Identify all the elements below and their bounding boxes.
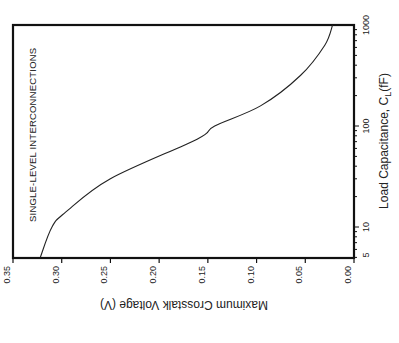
voltage-tick-label: 0.00 (343, 266, 353, 284)
capacitance-tick-label: 1000 (361, 15, 371, 35)
capacitance-tick-label: 100 (361, 118, 371, 133)
series-line (40, 25, 332, 257)
voltage-tick-label: 0.15 (197, 266, 207, 284)
capacitance-tick-label: 10 (361, 222, 371, 232)
voltage-axis-title: Maximum Crosstalk Voltage (V) (100, 298, 268, 312)
capacitance-tick-label: 5 (361, 252, 371, 257)
capacitance-axis-title: Load Capacitance, CL(fF) (377, 73, 393, 209)
voltage-tick-label: 0.20 (148, 266, 158, 284)
voltage-tick-label: 0.35 (2, 266, 12, 284)
plot-frame (13, 25, 354, 258)
voltage-tick-label: 0.05 (294, 266, 304, 284)
data-curve (40, 25, 332, 257)
series-annotation: SINGLE-LEVEL INTERCONNECTIONS (27, 48, 38, 222)
voltage-tick-label: 0.25 (99, 266, 109, 284)
voltage-tick-label: 0.30 (51, 266, 61, 284)
voltage-axis-ticks: 0.350.300.250.200.150.100.050.00 (2, 258, 354, 284)
voltage-tick-label: 0.10 (246, 266, 256, 284)
capacitance-axis-ticks: 5101001000 (354, 15, 371, 258)
crosstalk-chart: 0.350.300.250.200.150.100.050.00 5101001… (0, 0, 399, 343)
